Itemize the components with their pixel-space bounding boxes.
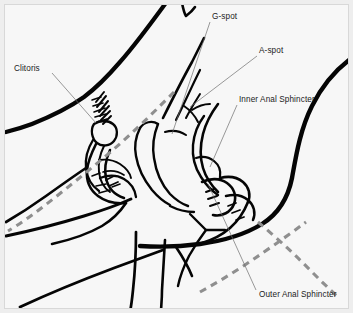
diagram-canvas: Clitoris G-spot A-spot Inner Anal Sphinc… [0, 0, 353, 313]
label-a-spot: A-spot [259, 46, 284, 55]
figure-background [0, 0, 353, 313]
label-g-spot: G-spot [212, 12, 238, 21]
label-outer-anal-sphincter: Outer Anal Sphincter [259, 290, 337, 299]
label-clitoris: Clitoris [14, 64, 40, 73]
anatomical-diagram-figure: Clitoris G-spot A-spot Inner Anal Sphinc… [0, 0, 353, 313]
label-inner-anal-sphincter: Inner Anal Sphincter [239, 95, 315, 104]
